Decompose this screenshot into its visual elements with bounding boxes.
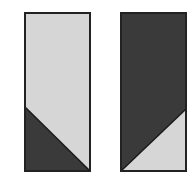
left-panel [25,13,90,171]
right-panel [121,13,186,171]
diagram-canvas [0,0,193,180]
